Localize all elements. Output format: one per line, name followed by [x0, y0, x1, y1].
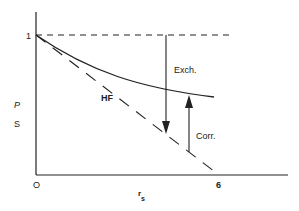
- exch-arrow-head: [162, 121, 170, 134]
- diagram: 1 P S O 6 r s HF Exch. Corr.: [0, 0, 299, 211]
- exch-label: Exch.: [174, 65, 197, 75]
- tick-one-label: 1: [26, 31, 31, 41]
- y-axis-label-p: P: [14, 100, 20, 110]
- x-axis-label-subscript: s: [141, 195, 145, 202]
- origin-label: O: [33, 180, 40, 190]
- tick-six-label: 6: [216, 180, 221, 190]
- y-axis-label-s: S: [14, 119, 20, 129]
- corr-arrow-head: [185, 95, 193, 108]
- corr-label: Corr.: [196, 131, 216, 141]
- hf-label: HF: [101, 93, 113, 103]
